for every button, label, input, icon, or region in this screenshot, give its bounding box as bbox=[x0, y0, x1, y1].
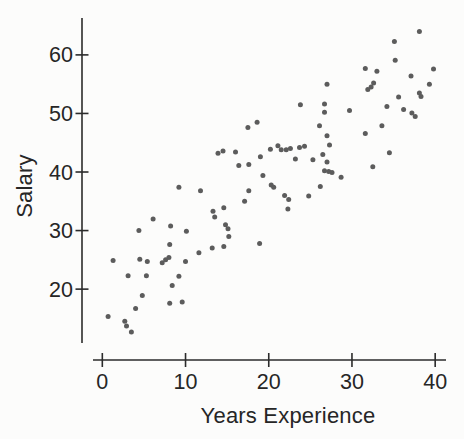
y-tick-label: 30 bbox=[49, 219, 73, 243]
data-point bbox=[124, 324, 129, 329]
data-point bbox=[255, 120, 260, 125]
data-point bbox=[170, 283, 175, 288]
data-point bbox=[322, 168, 327, 173]
data-point bbox=[137, 257, 142, 262]
data-point bbox=[325, 133, 330, 138]
data-point bbox=[318, 184, 323, 189]
data-point bbox=[325, 160, 330, 165]
data-point bbox=[392, 39, 397, 44]
data-point bbox=[374, 69, 379, 74]
data-point bbox=[221, 205, 226, 210]
data-point bbox=[298, 102, 303, 107]
data-point bbox=[310, 157, 315, 162]
data-point bbox=[379, 123, 384, 128]
data-point bbox=[144, 273, 149, 278]
data-point bbox=[268, 147, 273, 152]
data-point bbox=[111, 258, 116, 263]
data-point bbox=[306, 194, 311, 199]
x-axis-label: Years Experience bbox=[201, 403, 376, 429]
data-point bbox=[136, 228, 141, 233]
data-point bbox=[216, 151, 221, 156]
data-point bbox=[384, 104, 389, 109]
x-tick-label: 40 bbox=[423, 370, 447, 394]
data-point bbox=[401, 107, 406, 112]
data-point bbox=[285, 206, 290, 211]
data-point bbox=[284, 147, 289, 152]
data-point bbox=[106, 314, 111, 319]
data-point bbox=[275, 143, 280, 148]
data-point bbox=[167, 301, 172, 306]
data-point bbox=[246, 188, 251, 193]
data-point bbox=[196, 250, 201, 255]
data-point bbox=[198, 188, 203, 193]
data-point bbox=[419, 94, 424, 99]
data-point bbox=[347, 108, 352, 113]
data-point bbox=[370, 164, 375, 169]
data-point bbox=[183, 259, 188, 264]
data-point bbox=[286, 197, 291, 202]
y-tick-label: 40 bbox=[49, 161, 73, 185]
data-point bbox=[176, 274, 181, 279]
data-point bbox=[322, 110, 327, 115]
data-point bbox=[365, 87, 370, 92]
data-point bbox=[271, 185, 276, 190]
x-tick-label: 0 bbox=[96, 370, 108, 394]
data-point bbox=[126, 273, 131, 278]
data-point bbox=[260, 173, 265, 178]
data-point bbox=[387, 150, 392, 155]
data-point bbox=[417, 29, 422, 34]
data-point bbox=[363, 66, 368, 71]
x-tick-label: 30 bbox=[340, 370, 364, 394]
data-point bbox=[168, 223, 173, 228]
data-point bbox=[133, 306, 138, 311]
data-point bbox=[129, 329, 134, 334]
data-point bbox=[245, 125, 250, 130]
plot-canvas: 2030405060010203040 bbox=[0, 0, 464, 439]
data-point bbox=[167, 242, 172, 247]
data-point bbox=[339, 175, 344, 180]
data-point bbox=[226, 234, 231, 239]
y-tick-label: 60 bbox=[49, 43, 73, 67]
y-axis-label: Salary bbox=[12, 154, 38, 218]
data-point bbox=[221, 244, 226, 249]
data-point bbox=[320, 152, 325, 157]
data-point bbox=[246, 162, 251, 167]
data-point bbox=[211, 209, 216, 214]
data-point bbox=[122, 319, 127, 324]
data-point bbox=[257, 241, 262, 246]
scatter-plot-figure: 2030405060010203040 Years Experience Sal… bbox=[0, 0, 464, 439]
data-point bbox=[226, 226, 231, 231]
data-point bbox=[330, 170, 335, 175]
data-point bbox=[176, 185, 181, 190]
data-point bbox=[242, 199, 247, 204]
data-point bbox=[431, 66, 436, 71]
data-point bbox=[212, 215, 217, 220]
data-point bbox=[293, 157, 298, 162]
data-point bbox=[279, 147, 284, 152]
data-point bbox=[258, 154, 263, 159]
data-point bbox=[288, 146, 293, 151]
data-point bbox=[184, 229, 189, 234]
data-point bbox=[317, 123, 322, 128]
data-point bbox=[363, 131, 368, 136]
data-point bbox=[325, 82, 330, 87]
data-point bbox=[145, 259, 150, 264]
data-point bbox=[409, 74, 414, 79]
y-tick-label: 50 bbox=[49, 102, 73, 126]
data-point bbox=[393, 58, 398, 63]
x-tick-label: 10 bbox=[174, 370, 198, 394]
data-point bbox=[427, 82, 432, 87]
data-point bbox=[413, 114, 418, 119]
data-point bbox=[297, 145, 302, 150]
data-point bbox=[327, 143, 332, 148]
data-point bbox=[322, 102, 327, 107]
data-point bbox=[166, 255, 171, 260]
data-point bbox=[302, 144, 307, 149]
x-tick-label: 20 bbox=[257, 370, 281, 394]
y-tick-label: 20 bbox=[49, 278, 73, 302]
data-point bbox=[151, 216, 156, 221]
data-point bbox=[282, 193, 287, 198]
data-point bbox=[140, 293, 145, 298]
data-point bbox=[180, 300, 185, 305]
data-point bbox=[233, 150, 238, 155]
